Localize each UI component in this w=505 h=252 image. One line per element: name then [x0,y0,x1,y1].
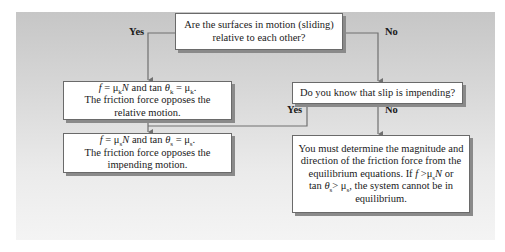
edge-no-motion [343,33,378,81]
node-text-line: The friction force opposes the [85,94,211,107]
node-text-line: equilibrium. [355,193,407,206]
node-text-line: Do you know that slip is impending? [300,87,455,100]
node-text-line: relative to each other? [213,32,306,45]
node-text-line: relative motion. [114,107,180,120]
node-equilibrium-equations: You must determine the magnitude and dir… [292,135,470,213]
edge-label-yes-motion: Yes [129,26,144,37]
static-formula: f = μsN and tan θs = μs. [100,134,195,147]
node-text-line-condition-theta: tan θs> μs, the system cannot be in [309,180,453,193]
node-text-line-condition-f: equilibrium equations. If f >μsN or [309,168,454,181]
node-text-line: impending motion. [108,159,188,172]
node-text-line: Are the surfaces in motion (sliding) [184,19,334,32]
node-kinetic-friction: f = μkN and tan θk = μk. The friction fo… [63,81,232,120]
edge-label-no-impending: No [385,104,398,115]
node-text-line: direction of the friction force from the [301,155,461,168]
node-text-line: The friction force opposes the [85,147,211,160]
node-static-friction: f = μsN and tan θs = μs. The friction fo… [63,133,232,173]
node-surfaces-in-motion-question: Are the surfaces in motion (sliding) rel… [175,13,343,50]
node-slip-impending-question: Do you know that slip is impending? [292,82,463,104]
kinetic-formula: f = μkN and tan θk = μk. [99,82,197,95]
edge-label-no-motion: No [385,26,398,37]
edge-label-yes-impending: Yes [287,104,302,115]
node-text-line: You must determine the magnitude and [299,143,464,156]
edge-yes-motion [148,33,175,80]
